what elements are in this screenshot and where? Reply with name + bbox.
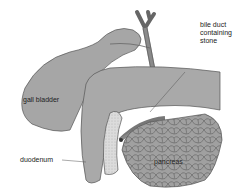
duodenum-leader	[62, 160, 86, 162]
label-gall-bladder: gall bladder	[23, 96, 59, 104]
label-bile-duct-line-3: stone	[200, 37, 243, 45]
label-bile-duct-line-1: bile duct	[200, 21, 243, 29]
label-bile-duct-line-2: containing	[200, 29, 243, 37]
gallstone	[119, 138, 123, 142]
label-pancreas: pancreas	[154, 158, 183, 166]
label-bile-duct: bile duct containing stone	[200, 21, 243, 45]
label-duodenum: duodenum	[20, 156, 53, 164]
